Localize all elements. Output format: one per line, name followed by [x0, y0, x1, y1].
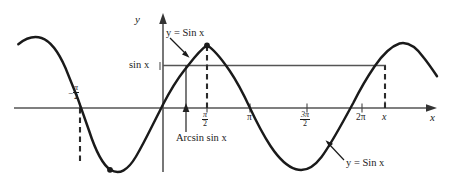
arcsin-vertical-line [183, 66, 190, 133]
tick-label-half-pi: π2 [202, 112, 208, 129]
x-axis [14, 104, 437, 112]
numerator: π [202, 111, 208, 119]
denominator: 2 [300, 119, 310, 128]
fraction-half-pi: π2 [202, 111, 208, 128]
tick-label-three-half-pi: 3π2 [300, 112, 310, 129]
trough-marker-neg-half-pi [107, 167, 113, 173]
curve-label-top-text: y = Sin x [166, 27, 204, 38]
fraction-neg-half-pi: π2 [73, 84, 79, 101]
curve-callout-arrow-bottom [326, 140, 345, 160]
tick-label-two-pi: 2π [356, 113, 366, 123]
curve-label-top: y = Sin x [166, 28, 204, 39]
tick-pi-text: π [247, 112, 252, 122]
denominator: 2 [202, 119, 208, 128]
tick-label-pi: π [247, 113, 252, 123]
sin-x-level-line [160, 62, 386, 70]
sine-graph-figure: y x sin x y = Sin x y = Sin x Arcsin sin… [0, 0, 451, 192]
curve-label-bottom: y = Sin x [346, 158, 384, 169]
curve-callout-arrow-top [170, 38, 190, 58]
sin-x-level-label: sin x [129, 60, 149, 71]
tick-label-neg-half-pi: −π2 [68, 85, 79, 102]
arcsin-label-text: Arcsin sin x [176, 132, 227, 143]
peak-marker-half-pi [204, 43, 210, 49]
axis-tick-marks [80, 102, 385, 113]
curve-label-bottom-text: y = Sin x [346, 157, 384, 168]
numerator: π [73, 84, 79, 92]
x-axis-label: x [430, 112, 435, 123]
fraction-three-half-pi: 3π2 [300, 111, 310, 128]
x-point-label: x [382, 112, 386, 122]
arcsin-label: Arcsin sin x [176, 133, 227, 144]
tick-two-pi-text: 2π [356, 112, 366, 122]
sin-x-level-text: sin x [129, 59, 149, 70]
sine-curve [18, 37, 437, 172]
y-axis-label: y [135, 14, 140, 25]
numerator: 3π [300, 111, 310, 119]
denominator: 2 [73, 92, 79, 101]
